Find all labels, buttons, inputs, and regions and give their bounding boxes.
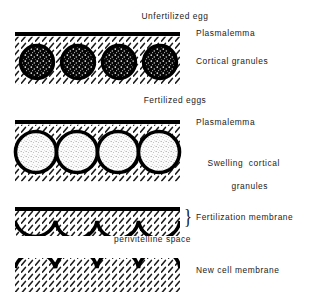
cortical-reaction-diagram: Unfertilized egg Plasmalemma Cortical gr…	[0, 0, 316, 304]
panel-fertilized-eggs	[15, 120, 180, 182]
brace-glyph: }	[184, 206, 192, 227]
label-swelling-line2: granules	[208, 181, 269, 193]
label-plasmalemma-panel1: Plasmalemma	[196, 28, 255, 39]
plasmalemma-line-panel2	[15, 120, 180, 124]
panel-unfertilized-egg	[15, 32, 180, 85]
new-cell-membrane-body	[15, 250, 180, 292]
label-fertilization-membrane: Fertilization membrane	[196, 212, 293, 223]
heading-unfertilized-egg: Unfertilized egg	[112, 11, 238, 22]
label-cortical-granules: Cortical granules	[196, 56, 268, 67]
plasmalemma-line-panel1	[15, 32, 180, 36]
label-perivitelline-space: perivitelline space	[114, 234, 191, 245]
fertilization-membrane-line	[15, 207, 180, 211]
panel-post-exocytosis	[15, 207, 180, 292]
heading-fertilized-eggs: Fertilized eggs	[112, 95, 238, 106]
label-plasmalemma-panel2: Plasmalemma	[196, 117, 255, 128]
label-swelling-line1: Swelling cortical	[208, 158, 280, 168]
label-new-cell-membrane: New cell membrane	[196, 265, 279, 276]
label-swelling-cortical-granules: Swelling cortical granules	[196, 146, 280, 204]
